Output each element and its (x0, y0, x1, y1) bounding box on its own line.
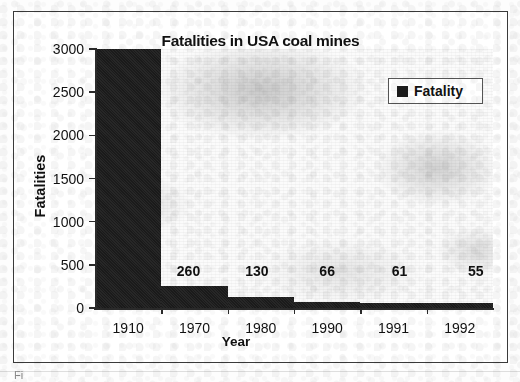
x-axis-tick (161, 308, 162, 314)
y-axis-line (95, 48, 97, 309)
bar (228, 297, 294, 308)
y-axis-tick (89, 48, 95, 49)
y-axis-tick (89, 221, 95, 222)
legend-label-fatality: Fatality (414, 83, 463, 99)
bar (95, 49, 161, 308)
chart-title: Fatalities in USA coal mines (14, 32, 507, 50)
y-axis-tick-label: 0 (26, 300, 84, 316)
x-axis-tick-label: 1970 (179, 320, 210, 336)
y-axis-tick-label: 3000 (26, 41, 84, 57)
x-axis-tick (360, 308, 361, 314)
y-axis-tick (89, 91, 95, 92)
bar-value-label: 130 (245, 263, 268, 279)
x-axis-tick-label: 1910 (113, 320, 144, 336)
bar (161, 286, 227, 308)
y-axis-tick (89, 264, 95, 265)
bar-value-label: 61 (392, 263, 408, 279)
x-axis-tick (228, 308, 229, 314)
x-axis-tick (294, 308, 295, 314)
bar-value-label: 66 (319, 263, 335, 279)
x-axis-title: Year (222, 334, 251, 349)
x-axis-tick (427, 308, 428, 314)
x-axis-tick-label: 1991 (378, 320, 409, 336)
page-edge-line (0, 371, 520, 372)
scanned-page: Fatalities in USA coal mines 30002500200… (0, 0, 520, 382)
caption-fragment: Fi (14, 369, 23, 379)
y-axis-tick (89, 135, 95, 136)
y-axis-tick-label: 2500 (26, 84, 84, 100)
bar-value-label: 55 (468, 263, 484, 279)
bar-value-label: 260 (177, 263, 200, 279)
x-axis-tick-label: 1992 (444, 320, 475, 336)
y-axis-tick (89, 307, 95, 308)
legend-swatch-fatality (397, 86, 408, 97)
chart-legend: Fatality (388, 78, 483, 104)
x-axis-tick-label: 1990 (312, 320, 343, 336)
y-axis-title: Fatalities (32, 106, 48, 266)
y-axis-tick (89, 178, 95, 179)
